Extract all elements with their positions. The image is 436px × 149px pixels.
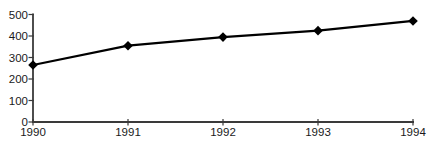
- x-axis-tick-label: 1993: [305, 126, 331, 138]
- y-axis-tick-label: 100: [9, 95, 28, 107]
- data-point-marker: [408, 16, 418, 26]
- data-point-marker: [218, 32, 228, 42]
- x-axis-tick-label: 1994: [400, 126, 426, 138]
- x-axis-tick-label: 1990: [20, 126, 46, 138]
- data-point-marker: [28, 60, 38, 70]
- x-axis-tick-label: 1991: [115, 126, 141, 138]
- line-chart-figure: 010020030040050019901991199219931994: [0, 0, 436, 149]
- y-axis-tick-label: 400: [9, 30, 28, 42]
- data-point-marker: [123, 41, 133, 51]
- y-axis-tick-label: 500: [9, 9, 28, 21]
- data-point-marker: [313, 26, 323, 36]
- x-axis-tick-label: 1992: [210, 126, 236, 138]
- y-axis-tick-label: 300: [9, 52, 28, 64]
- line-chart: 010020030040050019901991199219931994: [0, 0, 436, 149]
- y-axis-tick-label: 200: [9, 73, 28, 85]
- series-line: [33, 21, 413, 65]
